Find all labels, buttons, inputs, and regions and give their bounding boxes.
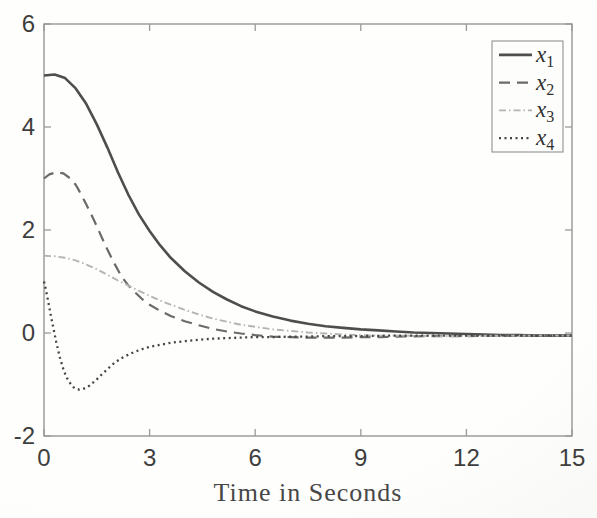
series-x4-line: [44, 282, 572, 390]
x-axis-title: Time in Seconds: [44, 478, 572, 508]
x-tick-label: 6: [249, 444, 262, 471]
legend: x1x2x3x4: [492, 41, 563, 153]
y-tick-label: -2: [14, 422, 35, 449]
x-tick-label: 3: [143, 444, 156, 471]
y-tick-label: 6: [22, 10, 35, 37]
y-tick-label: 0: [22, 319, 35, 346]
x-tick-label: 12: [453, 444, 480, 471]
y-tick-label: 4: [22, 113, 35, 140]
line-chart: 03691215-20246x1x2x3x4: [0, 0, 597, 518]
x-tick-label: 15: [559, 444, 586, 471]
y-tick-label: 2: [22, 216, 35, 243]
x-tick-label: 0: [37, 444, 50, 471]
series-x2-line: [44, 172, 572, 337]
x-tick-label: 9: [354, 444, 367, 471]
figure-page: 03691215-20246x1x2x3x4 Time in Seconds: [0, 0, 597, 518]
